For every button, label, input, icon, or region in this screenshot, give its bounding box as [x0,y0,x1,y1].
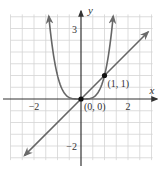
y-tick-label: −2 [66,141,77,152]
axis-labels: −223−2xy [29,4,155,152]
identity-line-up [81,32,148,99]
point-marker [102,73,107,78]
function-graph: (0, 0)(1, 1) −223−2xy [0,0,163,170]
y-axis-label: y [87,4,93,16]
point-marker [78,96,83,101]
x-axis-label: x [149,84,155,96]
x-tick-label: −2 [29,101,40,112]
point-label: (0, 0) [84,101,106,113]
x-tick-label: 2 [126,101,131,112]
point-label: (1, 1) [108,78,130,90]
axes [3,11,157,166]
y-tick-label: 3 [72,24,77,35]
